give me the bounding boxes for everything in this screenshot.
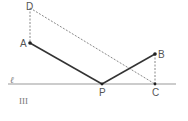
point-P xyxy=(101,83,104,86)
label-B: B xyxy=(158,49,165,60)
geometry-diagram: D A B P C ℓ III xyxy=(0,0,188,121)
point-B xyxy=(153,52,157,56)
label-line-l: ℓ xyxy=(10,75,14,85)
figure-label: III xyxy=(19,96,28,106)
label-P: P xyxy=(99,87,106,98)
segment-DC xyxy=(30,8,155,84)
point-C xyxy=(154,83,157,86)
segment-AP xyxy=(30,43,102,84)
label-C: C xyxy=(152,87,159,98)
point-A xyxy=(28,41,32,45)
label-D: D xyxy=(26,1,33,12)
label-A: A xyxy=(20,38,27,49)
